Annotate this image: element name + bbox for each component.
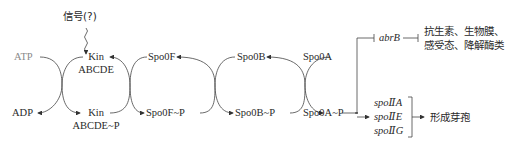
node-atp: ATP [14, 51, 33, 63]
gene-spoiia: spoⅡA [374, 97, 402, 109]
gene-spoiig: spoⅡG [374, 125, 403, 137]
node-kin-top-1: Kin [88, 51, 104, 63]
node-spo0a: Spo0A [303, 51, 332, 63]
node-spo0b: Spo0B [237, 51, 266, 63]
abrb-targets-line2: 感受态、降解酶类 [424, 39, 504, 51]
outcome-sporulation: 形成芽孢 [430, 111, 470, 123]
node-spo0b-p: Spo0B~P [235, 107, 275, 119]
node-spo0f-p: Spo0F~P [146, 107, 185, 119]
node-spo0f: Spo0F [148, 51, 175, 63]
node-adp: ADP [12, 107, 33, 119]
node-kin-bot-1: Kin [88, 107, 104, 119]
gene-abrb: abrB [379, 32, 400, 44]
node-kin-bot-2: ABCDE~P [72, 120, 119, 132]
gene-spoiie: spoⅡE [374, 111, 402, 123]
signal-label: 信号(?) [63, 10, 97, 22]
abrb-targets-line1: 抗生素、生物膜、 [424, 25, 504, 37]
node-spo0a-p: Spo0A~P [303, 107, 344, 119]
node-kin-top-2: ABCDE [78, 64, 114, 76]
